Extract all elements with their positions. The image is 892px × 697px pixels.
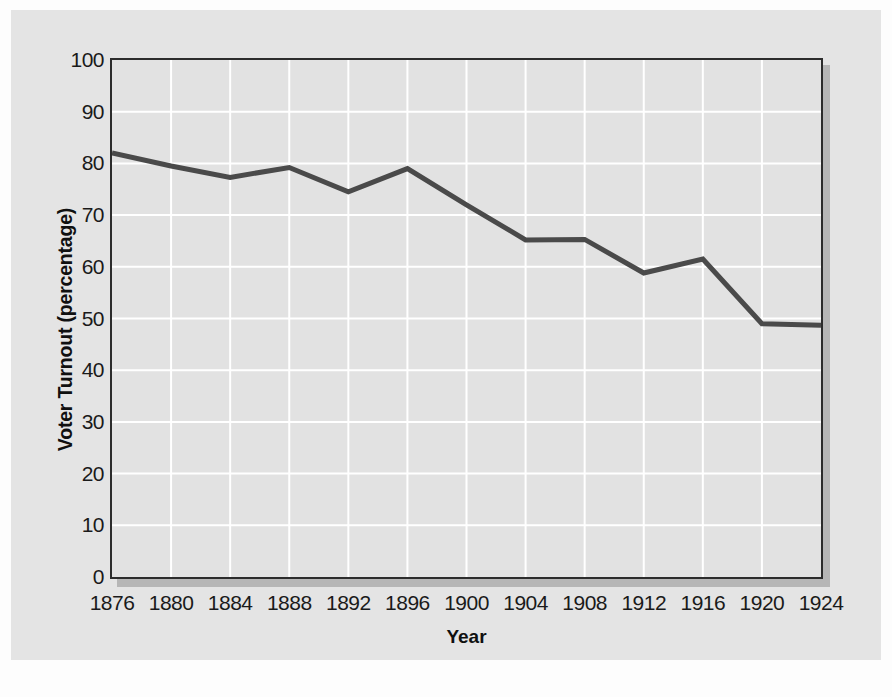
x-axis-title: Year	[110, 626, 823, 648]
y-axis-tick-label: 0	[48, 566, 104, 587]
x-axis-tick-label: 1924	[786, 592, 856, 613]
plot-area	[110, 58, 823, 579]
chart-figure: 0102030405060708090100 18761880188418881…	[0, 0, 892, 697]
x-axis-tick-labels: 1876188018841888189218961900190419081912…	[0, 592, 892, 622]
plot-svg	[112, 60, 821, 577]
y-axis-tick-label: 100	[48, 49, 104, 70]
y-axis-title: Voter Turnout (percentage)	[54, 120, 77, 540]
